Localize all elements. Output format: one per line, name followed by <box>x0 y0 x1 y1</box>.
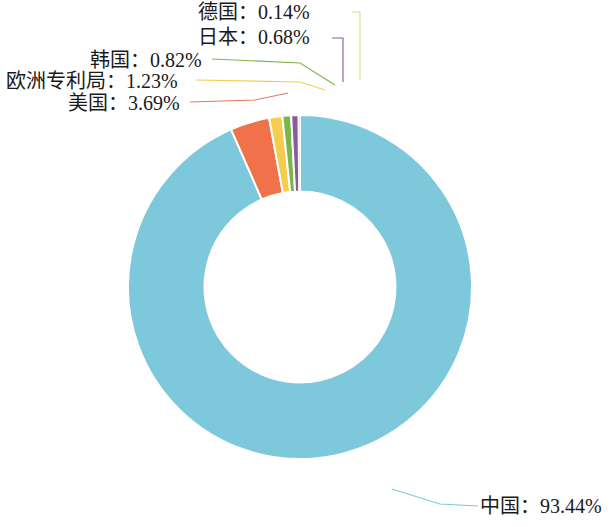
leader-line-usa <box>190 93 288 102</box>
leader-line-epo <box>196 80 325 90</box>
callout-label-china: 中国：93.44% <box>480 496 602 517</box>
callout-label-japan: 日本：0.68% <box>198 27 310 48</box>
slice-germany[interactable] <box>298 115 300 192</box>
callout-label-korea: 韩国：0.82% <box>90 50 202 71</box>
donut-slices <box>128 115 472 459</box>
leader-line-china <box>392 489 478 506</box>
donut-chart-figure: 德国：0.14% 日本：0.68% 韩国：0.82% 欧洲专利局：1.23% 美… <box>0 0 612 527</box>
callout-label-usa: 美国：3.69% <box>68 93 180 114</box>
leader-line-japan <box>332 38 343 82</box>
leader-line-germany <box>352 12 360 80</box>
callout-label-epo: 欧洲专利局：1.23% <box>6 71 178 92</box>
callout-label-germany: 德国：0.14% <box>198 2 310 23</box>
